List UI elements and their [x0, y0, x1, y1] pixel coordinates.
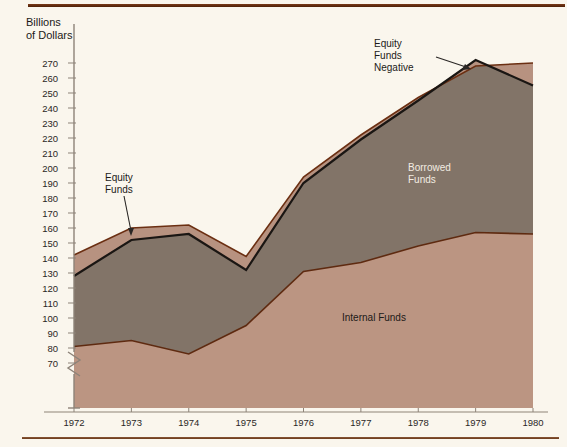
- label-borrowed-funds: Borrowed Funds: [408, 162, 451, 186]
- y-tick-label: 210: [32, 149, 58, 158]
- label-equity-funds-negative: Equity Funds Negative: [374, 38, 413, 74]
- x-tick-label: 1978: [398, 418, 438, 427]
- area-chart-plot: [0, 0, 567, 447]
- y-tick-label: 260: [32, 74, 58, 83]
- y-tick-label: 170: [32, 209, 58, 218]
- y-tick-label: 110: [32, 299, 58, 308]
- x-tick-label: 1972: [54, 418, 94, 427]
- x-tick-label: 1976: [284, 418, 324, 427]
- y-tick-label: 230: [32, 119, 58, 128]
- y-tick-label: 120: [32, 284, 58, 293]
- y-tick-label: 180: [32, 194, 58, 203]
- y-tick-label: 130: [32, 269, 58, 278]
- y-tick-label: 140: [32, 254, 58, 263]
- y-tick-label: 200: [32, 164, 58, 173]
- x-tick-label: 1973: [111, 418, 151, 427]
- chart-figure: Billions of Dollars 70809010011012013014…: [0, 0, 567, 447]
- y-tick-label: 160: [32, 224, 58, 233]
- leader-equity-negative: [436, 57, 466, 67]
- x-tick-label: 1974: [169, 418, 209, 427]
- y-tick-label: 190: [32, 179, 58, 188]
- stacked-areas: [74, 60, 533, 408]
- x-tick-label: 1980: [513, 418, 553, 427]
- y-tick-label: 100: [32, 314, 58, 323]
- x-tick-label: 1975: [226, 418, 266, 427]
- label-equity-funds: Equity Funds: [105, 172, 133, 196]
- y-tick-label: 150: [32, 239, 58, 248]
- leader-equity-funds: [124, 196, 131, 231]
- y-tick-label: 80: [32, 344, 58, 353]
- y-tick-label: 240: [32, 104, 58, 113]
- x-tick-label: 1979: [456, 418, 496, 427]
- y-tick-label: 270: [32, 59, 58, 68]
- x-tick-label: 1977: [341, 418, 381, 427]
- y-tick-label: 220: [32, 134, 58, 143]
- y-tick-label: 70: [32, 359, 58, 368]
- label-internal-funds: Internal Funds: [342, 312, 406, 324]
- y-tick-label: 90: [32, 329, 58, 338]
- y-tick-label: 250: [32, 89, 58, 98]
